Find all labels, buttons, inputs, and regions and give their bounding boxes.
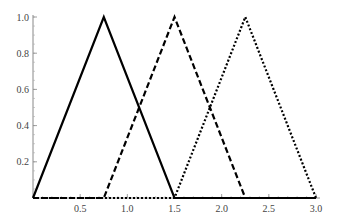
x-tick-label: 0.5: [74, 203, 87, 214]
series-dashed-line: [33, 17, 316, 198]
x-tick-label: 2.0: [215, 203, 228, 214]
series-lines: [33, 17, 316, 198]
x-tick-label: 2.5: [263, 203, 276, 214]
x-tick-label: 1.5: [168, 203, 181, 214]
y-tick-label: 0.2: [17, 156, 30, 167]
y-tick-label: 1.0: [17, 12, 30, 23]
y-tick-label: 0.4: [17, 120, 30, 131]
series-solid-line: [33, 17, 316, 198]
x-tick-label: 1.0: [121, 203, 134, 214]
y-tick-label: 0.8: [17, 48, 30, 59]
x-tick-label: 3.0: [310, 203, 323, 214]
series-dotted-line: [33, 17, 316, 198]
triangular-membership-chart: 0.51.01.52.02.53.00.20.40.60.81.0: [0, 0, 338, 223]
y-tick-label: 0.6: [17, 84, 30, 95]
